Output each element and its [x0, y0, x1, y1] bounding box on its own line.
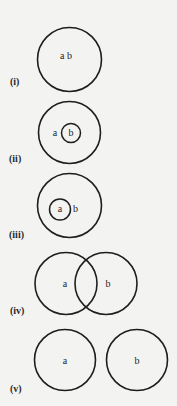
label-b: b [69, 127, 74, 138]
case-label-ii: (ii) [9, 153, 21, 165]
set-relations-diagram: a b (i) a b (ii) a b (iii) a b (iv) a b … [0, 0, 177, 406]
panel-v: a b (v) [10, 330, 168, 396]
panel-ii: a b (ii) [9, 102, 101, 166]
case-label-v: (v) [10, 383, 22, 395]
label-a: a [63, 355, 68, 366]
label-b: b [106, 278, 111, 289]
label-a-b: a b [60, 50, 72, 61]
case-label-iii: (iii) [9, 229, 24, 241]
label-a: a [58, 203, 63, 214]
panel-iii: a b (iii) [9, 174, 102, 242]
label-b: b [73, 203, 78, 214]
panel-iv: a b (iv) [10, 253, 137, 318]
case-label-iv: (iv) [10, 305, 24, 317]
label-a: a [53, 127, 58, 138]
label-b: b [135, 355, 140, 366]
panel-i: a b (i) [10, 28, 102, 92]
label-a: a [63, 278, 68, 289]
case-label-i: (i) [10, 76, 19, 88]
